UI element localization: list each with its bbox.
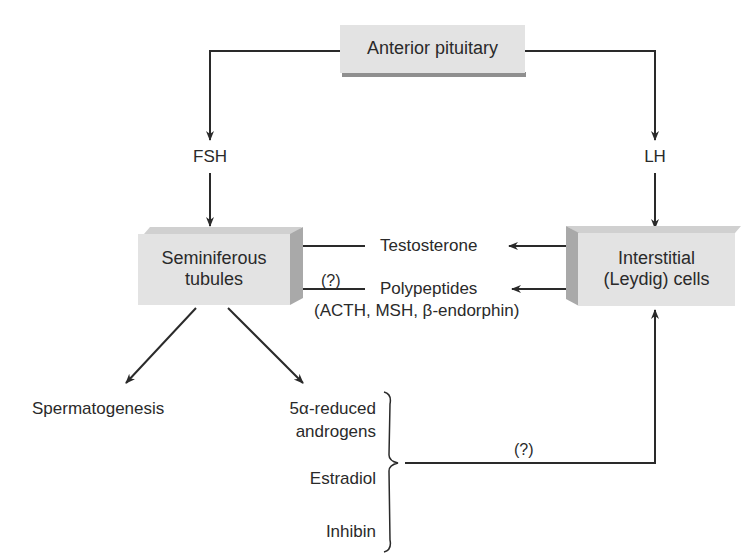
arrow-seminiferous-to-spermatogenesis — [126, 308, 196, 383]
inhibin-label: Inhibin — [240, 521, 376, 542]
curly-brace — [384, 392, 398, 552]
testosterone-label: Testosterone — [380, 235, 477, 256]
seminiferous-label-line2: tubules — [138, 269, 290, 290]
polypeptides-question-label: (?) — [321, 270, 341, 291]
interstitial-label-line2: (Leydig) cells — [578, 269, 735, 290]
estradiol-label: Estradiol — [240, 468, 376, 489]
feedback-question-label: (?) — [514, 439, 534, 460]
reduced-androgens-label-line2: androgens — [240, 421, 376, 442]
anterior-pituitary-label: Anterior pituitary — [340, 38, 525, 59]
seminiferous-box-top — [144, 227, 302, 234]
seminiferous-box-side — [290, 227, 303, 305]
polypeptides-label: Polypeptides — [380, 278, 477, 299]
lh-label: LH — [625, 146, 685, 167]
arrow-pituitary-to-fsh — [210, 51, 340, 140]
reduced-androgens-label-line1: 5α-reduced — [240, 398, 376, 419]
interstitial-box-top — [566, 226, 741, 233]
arrow-pituitary-to-lh — [525, 51, 655, 140]
polypeptides-detail-label: (ACTH, MSH, β-endorphin) — [314, 300, 519, 321]
seminiferous-label-line1: Seminiferous — [138, 248, 290, 269]
fsh-label: FSH — [180, 146, 240, 167]
arrow-seminiferous-to-androgens — [228, 308, 303, 383]
interstitial-label-line1: Interstitial — [578, 248, 735, 269]
spermatogenesis-label: Spermatogenesis — [32, 398, 164, 419]
